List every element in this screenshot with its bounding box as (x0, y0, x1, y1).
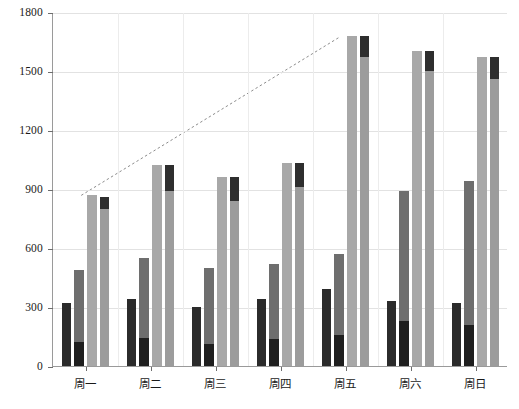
bar-segment-base (334, 335, 344, 366)
bar-segment-top (490, 57, 500, 79)
x-tick-mark (216, 367, 217, 371)
y-tick-mark (48, 367, 53, 368)
y-tick-label: 900 (25, 184, 43, 196)
gridline-y (53, 190, 507, 191)
bar-segment-top (425, 51, 435, 71)
x-tick-mark (86, 367, 87, 371)
y-tick-mark (48, 13, 53, 14)
gridline-y (53, 131, 507, 132)
bar-segment-base (139, 338, 149, 366)
gridline-y (53, 72, 507, 73)
y-tick-label: 1800 (19, 7, 43, 19)
bar (74, 270, 84, 366)
y-tick-mark (48, 190, 53, 191)
bar (399, 191, 409, 366)
bar (387, 301, 397, 366)
bar (204, 268, 214, 366)
bar-segment-top (230, 177, 240, 201)
bar (490, 57, 500, 366)
x-tick-label: 周五 (315, 375, 375, 391)
y-tick-mark (48, 249, 53, 250)
bar (334, 254, 344, 366)
y-tick-mark (48, 308, 53, 309)
plot-area (52, 13, 507, 367)
x-tick-mark (476, 367, 477, 371)
y-tick-mark (48, 131, 53, 132)
gridline-x (248, 13, 249, 366)
bar (127, 299, 137, 366)
bar (269, 264, 279, 366)
bar (165, 165, 175, 366)
bar-segment-top (295, 163, 305, 187)
bar (152, 165, 162, 366)
gridline-x (118, 13, 119, 366)
gridline-x (443, 13, 444, 366)
bar (192, 307, 202, 366)
x-tick-label: 周六 (380, 375, 440, 391)
x-tick-label: 周一 (55, 375, 115, 391)
y-tick-label: 1200 (19, 125, 43, 137)
bar (217, 177, 227, 366)
gridline-x (183, 13, 184, 366)
gridline-y (53, 249, 507, 250)
y-tick-mark (48, 72, 53, 73)
bar-segment-base (204, 344, 214, 366)
bar (282, 163, 292, 366)
bar (452, 303, 462, 366)
bar-segment-top (360, 36, 370, 58)
bar (412, 51, 422, 366)
bar (477, 57, 487, 366)
bar (139, 258, 149, 366)
bar-segment-base (269, 339, 279, 366)
bar-segment-base (399, 321, 409, 366)
y-tick-label: 1500 (19, 66, 43, 78)
x-tick-label: 周二 (120, 375, 180, 391)
bar (87, 195, 97, 366)
bar (100, 197, 110, 366)
x-tick-label: 周日 (445, 375, 505, 391)
y-tick-label: 300 (25, 302, 43, 314)
x-tick-mark (151, 367, 152, 371)
gridline-x (378, 13, 379, 366)
x-tick-mark (281, 367, 282, 371)
bar-segment-base (464, 325, 474, 366)
bar (295, 163, 305, 366)
x-tick-mark (411, 367, 412, 371)
bar-segment-top (165, 165, 175, 191)
bar (425, 51, 435, 366)
y-tick-label: 600 (25, 243, 43, 255)
x-tick-mark (346, 367, 347, 371)
gridline-y (53, 308, 507, 309)
gridline-y (53, 13, 507, 14)
bar (360, 36, 370, 366)
bar-segment-top (100, 197, 110, 209)
bar-segment-base (74, 342, 84, 366)
y-tick-label: 0 (37, 361, 43, 373)
bar (347, 36, 357, 366)
chart-container: 0300600900120015001800周一周二周三周四周五周六周日 (0, 0, 519, 409)
bar (322, 289, 332, 366)
bar (464, 181, 474, 366)
x-tick-label: 周三 (185, 375, 245, 391)
x-tick-label: 周四 (250, 375, 310, 391)
bar (62, 303, 72, 366)
gridline-x (313, 13, 314, 366)
bar (257, 299, 267, 366)
bar (230, 177, 240, 366)
